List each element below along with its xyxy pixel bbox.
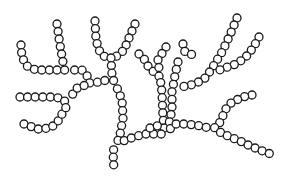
chain-right-lower-arm xyxy=(211,91,256,132)
bead-unit xyxy=(24,93,32,101)
bead-unit xyxy=(45,66,53,74)
bead-unit xyxy=(91,25,99,33)
bead-unit xyxy=(53,66,61,74)
bead-unit xyxy=(180,120,188,128)
bead-unit xyxy=(54,28,62,36)
bead-unit xyxy=(92,32,100,40)
bead-unit xyxy=(158,94,166,102)
bead-unit xyxy=(109,153,117,161)
bead-unit xyxy=(168,103,176,111)
bead-unit xyxy=(195,122,203,130)
branched-chain-diagram xyxy=(0,0,292,185)
bead-unit xyxy=(168,88,176,96)
bead-unit xyxy=(93,78,101,86)
bead-unit xyxy=(155,64,163,72)
bead-unit xyxy=(159,109,167,117)
bead-unit xyxy=(168,95,176,103)
chain-top-center-left-arm xyxy=(91,17,108,60)
bead-unit xyxy=(154,56,162,64)
chain-left-upper-vertical xyxy=(53,20,67,66)
bead-unit xyxy=(216,66,224,74)
bead-unit xyxy=(56,43,64,51)
bead-unit xyxy=(39,93,47,101)
bead-unit xyxy=(171,73,179,81)
bead-unit xyxy=(30,65,38,73)
bead-unit xyxy=(53,20,61,28)
bead-unit xyxy=(91,17,99,25)
bead-unit xyxy=(107,54,115,62)
bead-unit xyxy=(202,123,210,131)
bead-unit xyxy=(172,120,180,128)
bead-unit xyxy=(17,41,25,49)
bead-layer xyxy=(16,14,273,169)
chain-left-middle-row xyxy=(16,93,69,105)
bead-unit xyxy=(46,93,54,101)
chain-mid-right-vertical xyxy=(165,58,182,126)
bead-unit xyxy=(58,50,66,58)
bead-unit xyxy=(187,121,195,129)
chain-mid-right-upper xyxy=(179,40,196,58)
bead-unit xyxy=(110,77,118,85)
bead-unit xyxy=(188,50,196,58)
bead-unit xyxy=(107,62,115,70)
chain-center-trunk-lower xyxy=(113,85,127,145)
bead-unit xyxy=(119,107,127,115)
bead-unit xyxy=(135,132,143,140)
bead-unit xyxy=(179,40,187,48)
bead-unit xyxy=(31,93,39,101)
bead-unit xyxy=(265,150,273,158)
bead-unit xyxy=(110,161,118,169)
bead-unit xyxy=(38,66,46,74)
bead-unit xyxy=(16,93,24,101)
bead-unit xyxy=(62,104,70,112)
bead-unit xyxy=(61,66,69,74)
bead-unit xyxy=(157,130,165,138)
bead-unit xyxy=(71,66,79,74)
bead-unit xyxy=(167,111,175,119)
bead-unit xyxy=(55,35,63,43)
chain-left-lower-hook xyxy=(20,82,88,134)
bead-unit xyxy=(118,122,126,130)
bead-unit xyxy=(157,79,165,87)
bead-unit xyxy=(80,82,88,90)
bead-unit xyxy=(118,99,126,107)
bead-unit xyxy=(101,77,109,85)
bead-unit xyxy=(34,125,42,133)
bead-unit xyxy=(174,58,182,66)
bead-unit xyxy=(187,81,195,89)
bead-unit xyxy=(153,122,161,130)
bead-unit xyxy=(180,82,188,90)
bead-unit xyxy=(158,86,166,94)
bead-unit xyxy=(172,65,180,73)
bead-unit xyxy=(248,91,256,99)
chain-mid-lower-connector xyxy=(120,130,165,145)
bead-unit xyxy=(159,101,167,109)
bead-unit xyxy=(119,114,127,122)
chain-bottom-tail xyxy=(109,146,117,169)
chain-center-crossbar xyxy=(93,77,108,87)
bead-unit xyxy=(59,58,67,66)
bead-unit xyxy=(169,80,177,88)
